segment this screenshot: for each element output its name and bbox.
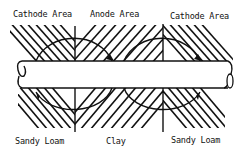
diagram-graphic — [0, 0, 240, 154]
label-cathode-area-right: Cathode Area — [170, 11, 229, 21]
pipe — [18, 61, 234, 88]
hatch-clay-bottom — [60, 85, 178, 130]
hatch-sandy-loam-left-top — [0, 20, 96, 65]
label-clay: Clay — [106, 136, 126, 146]
label-sandy-loam-right: Sandy Loam — [171, 135, 220, 145]
corrosion-diagram: Cathode Area Anode Area Cathode Area San… — [0, 0, 240, 154]
label-anode-area: Anode Area — [90, 9, 139, 19]
label-cathode-area-left: Cathode Area — [13, 9, 72, 19]
label-sandy-loam-left: Sandy Loam — [15, 136, 64, 146]
